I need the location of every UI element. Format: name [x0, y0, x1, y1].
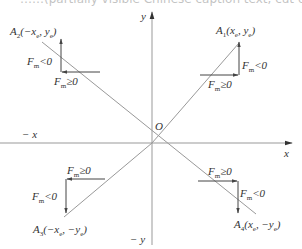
point-a1-label: A1(xe, ye) [216, 25, 255, 39]
a1-fm-positive-label: Fm≥0 [208, 79, 232, 93]
point-a3-label: A3(−xe, −ye) [33, 224, 87, 238]
line-a2-a4 [42, 42, 256, 214]
origin-label: O [155, 121, 163, 132]
a2-fm-positive-label: Fm≥0 [54, 76, 78, 90]
neg-y-axis-label: − y [130, 234, 145, 245]
point-a2-label: A2(−xe, ye) [10, 26, 56, 40]
neg-x-axis-label: − x [22, 129, 37, 140]
a3-fm-positive-label: Fm≥0 [67, 165, 91, 179]
a3-fm-negative-label: Fm<0 [32, 191, 57, 205]
y-axis-label: y [141, 11, 146, 22]
a1-fm-negative-label: Fm<0 [242, 60, 267, 74]
line-origin-a3 [64, 143, 152, 217]
a4-fm-negative-label: Fm<0 [240, 188, 265, 202]
linear-interpolation-quadrant-diagram: ……(partially visible Chinese caption tex… [0, 0, 302, 249]
point-a4-label: A4(xe, −ye) [234, 219, 280, 233]
x-axis-label: x [284, 148, 289, 159]
a2-fm-negative-label: Fm<0 [27, 56, 52, 70]
a4-fm-positive-label: Fm≥0 [208, 166, 232, 180]
